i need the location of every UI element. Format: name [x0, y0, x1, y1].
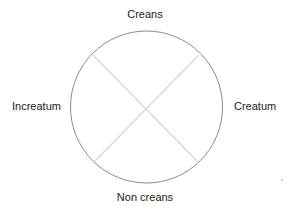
- label-right: Creatum: [234, 100, 276, 112]
- outer-circle: [71, 31, 223, 183]
- label-left: Increatum: [12, 100, 61, 112]
- label-bottom: Non creans: [0, 191, 290, 203]
- artifact-dot: [281, 179, 283, 181]
- label-top: Creans: [0, 8, 290, 20]
